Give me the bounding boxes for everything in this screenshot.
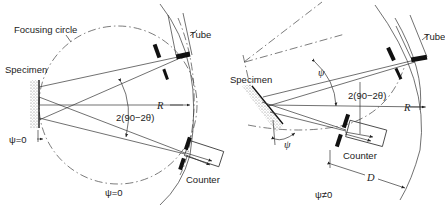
angle-label: 2(90−2θ) <box>348 90 386 101</box>
radius-label: R <box>156 100 164 111</box>
psi-zero-bottom-label: ψ=0 <box>105 187 123 198</box>
counter-detector <box>345 120 387 146</box>
specimen-label: Specimen <box>5 64 47 75</box>
diffraction-geometry-diagram: Focusing circle Specimen Tube Counter R … <box>0 0 445 207</box>
right-panel-psi-nonzero: Specimen Tube Counter R 2(90−2θ) ψ ψ D ψ… <box>230 2 445 200</box>
counter-label: Counter <box>343 150 377 161</box>
radius-label: R <box>403 102 411 113</box>
tube-label: Tube <box>424 31 445 42</box>
counter-label: Counter <box>186 174 220 185</box>
tube-slit-lower <box>162 69 169 80</box>
psi-nonzero-label: ψ≠0 <box>315 189 332 200</box>
focusing-circle-label: Focusing circle <box>14 24 77 35</box>
tube-slit-upper <box>386 47 396 61</box>
focusing-circle-leader <box>66 35 71 42</box>
distance-label: D <box>366 172 375 183</box>
tube-slit-upper <box>153 44 162 59</box>
counter-slit-lower <box>335 134 343 148</box>
counter-slit-lower <box>178 158 186 171</box>
angle-label: 2(90−2θ) <box>116 112 154 123</box>
specimen-normal <box>244 2 322 62</box>
specimen-label: Specimen <box>230 74 272 85</box>
tube-label: Tube <box>190 29 211 40</box>
psi-top-label: ψ <box>318 67 325 78</box>
tube-slit-lower <box>395 68 403 80</box>
incident-and-diffracted-rays <box>262 60 426 131</box>
psi-bottom-label: ψ <box>284 139 291 150</box>
left-panel-psi-zero: Focusing circle Specimen Tube Counter R … <box>5 4 224 205</box>
goniometer-arc <box>375 5 422 200</box>
specimen <box>30 80 40 128</box>
psi-zero-left-label: ψ=0 <box>9 134 27 145</box>
specimen-normal-upper <box>245 34 345 62</box>
counter-slit-upper <box>184 137 192 151</box>
